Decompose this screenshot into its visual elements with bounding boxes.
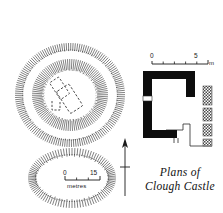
earthwork-scale-min-label: 0 <box>63 169 67 176</box>
earthwork-scale-unit-label: metres <box>67 183 87 189</box>
castle-scale-max-label: 5 <box>194 52 198 59</box>
figure-plans-of-clough-castle: 0 5 m 0 15 metres Plans of Clough Castle <box>0 0 223 213</box>
earthwork-scale-max-label: 15 <box>90 169 97 176</box>
entrance-gap <box>143 96 152 101</box>
castle-scale-unit-label: m <box>209 60 214 66</box>
figure-caption: Plans of Clough Castle <box>137 166 223 193</box>
caption-line-1: Plans of <box>137 166 223 180</box>
castle-scale-min-label: 0 <box>150 52 154 59</box>
caption-line-2: Clough Castle <box>137 180 223 194</box>
